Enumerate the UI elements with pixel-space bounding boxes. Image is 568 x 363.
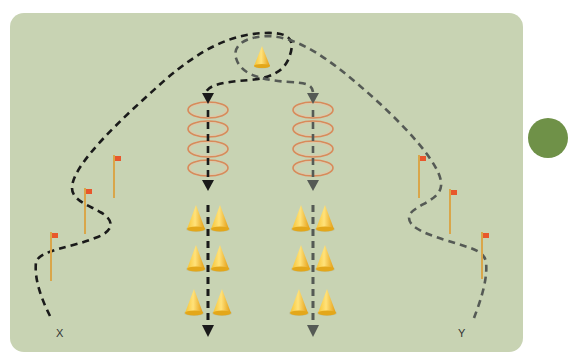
left-path-x — [36, 33, 292, 326]
left-arrowheads — [202, 93, 214, 337]
flag-pole-icon — [450, 189, 457, 234]
right-path-y — [235, 36, 486, 326]
arrow-down-icon — [307, 180, 319, 191]
flag-pole-icon — [419, 155, 426, 198]
arrow-down-icon — [202, 180, 214, 191]
start-label-x: X — [56, 327, 64, 339]
arrow-down-icon — [202, 325, 214, 337]
left-slalom-poles — [51, 155, 121, 281]
flag-pole-icon — [114, 155, 121, 198]
right-slalom-poles — [419, 155, 489, 279]
flag-pole-icon — [85, 188, 92, 234]
top-cone-icon — [254, 46, 270, 69]
arrow-down-icon — [307, 325, 319, 337]
flag-pole-icon — [51, 232, 58, 281]
right-arrowheads — [307, 93, 319, 337]
start-label-y: Y — [458, 327, 466, 339]
